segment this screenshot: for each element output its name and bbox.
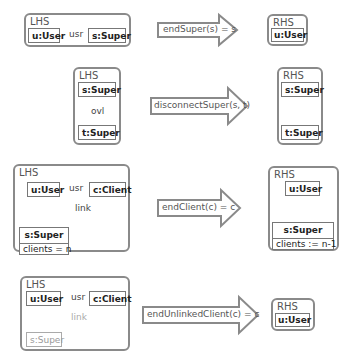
node-super: s:Super [88, 28, 126, 43]
rhs-label: RHS [274, 169, 295, 181]
node-client: c:Client [89, 291, 126, 306]
rule-2-transform-arrow: disconnectSuper(s, t) [150, 87, 249, 125]
rule-4-transform-arrow: endUnlinkedClient(c) = c [142, 296, 260, 334]
edge-label-usr: usr [68, 183, 84, 193]
rule-name-label: endSuper(s) = s [163, 24, 236, 35]
node-super-s: s:Super [78, 82, 116, 97]
lhs-label: LHS [19, 167, 38, 179]
edge-label-usr: usr [70, 292, 86, 302]
node-attribute: clients := n-1 [273, 238, 333, 250]
node-user: u:User [26, 291, 61, 306]
rhs-label: RHS [283, 70, 304, 82]
edge-label-ovl: ovl [90, 106, 105, 116]
node-user: u:User [285, 181, 320, 196]
node-client: c:Client [89, 182, 126, 197]
node-super-t: t:Super [78, 125, 116, 140]
rule-3-transform-arrow: endClient(c) = c [157, 189, 242, 227]
node-user: u:User [275, 313, 310, 327]
lhs-label: LHS [79, 70, 98, 82]
node-user: u:User [27, 182, 60, 197]
node-super-t: t:Super [281, 125, 319, 140]
node-super: s:Super clients = n [19, 227, 69, 255]
node-attribute: clients = n [20, 243, 68, 255]
rule-1-transform-arrow: endSuper(s) = s [157, 14, 239, 46]
lhs-label: LHS [30, 16, 49, 28]
edge-label-link-negated: link [70, 312, 88, 322]
lhs-label: LHS [26, 279, 45, 291]
node-super-negated: s:Super [26, 332, 62, 347]
rule-name-label: disconnectSuper(s, t) [154, 100, 250, 111]
node-user: u:User [271, 28, 304, 42]
node-super: s:Super clients := n-1 [272, 222, 334, 250]
node-user: u:User [28, 28, 60, 43]
edge-label-usr: usr [68, 29, 84, 39]
node-super-s: s:Super [281, 82, 319, 97]
rule-name-label: endUnlinkedClient(c) = c [147, 309, 259, 320]
rhs-label: RHS [277, 301, 298, 313]
edge-label-link: link [74, 203, 92, 213]
rule-name-label: endClient(c) = c [162, 202, 235, 213]
